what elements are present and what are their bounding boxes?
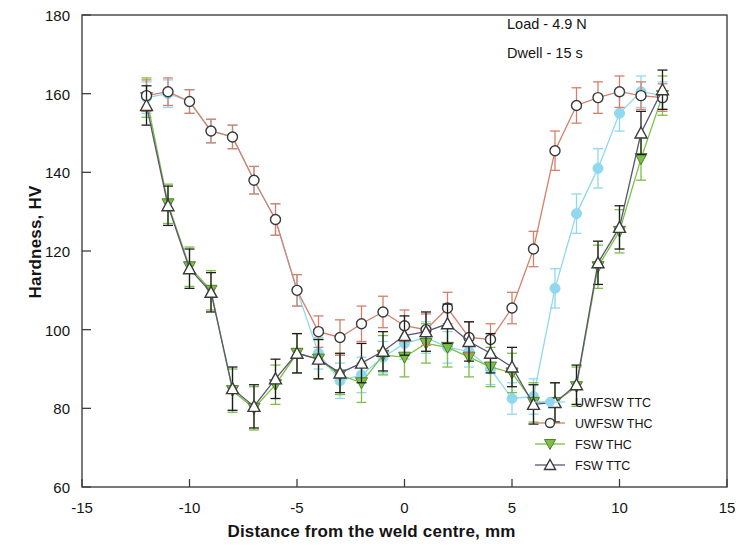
y-tick-label: 160 <box>45 86 70 103</box>
y-tick-label: 140 <box>45 164 70 181</box>
data-point-marker <box>249 175 259 185</box>
data-series-layer <box>141 70 669 430</box>
data-point-marker <box>546 398 555 407</box>
data-point-marker <box>572 209 582 219</box>
data-point-marker <box>635 127 647 138</box>
x-tick-label: -10 <box>179 499 201 516</box>
data-point-marker <box>206 126 216 136</box>
data-point-marker <box>357 319 367 329</box>
x-tick-label: 15 <box>719 499 736 516</box>
y-tick-label: 60 <box>53 479 70 496</box>
data-point-marker <box>507 394 517 404</box>
chart-canvas: -15-10-50510156080100120140160180 Load -… <box>0 0 743 550</box>
legend-entry-fsw-ttc[interactable]: FSW TTC <box>535 459 630 473</box>
data-point-marker <box>335 333 345 343</box>
annotation-dwell: Dwell - 15 s <box>507 45 583 61</box>
data-point-marker <box>550 146 560 156</box>
series-fsw-thc <box>141 76 669 430</box>
x-tick-label: 0 <box>400 499 408 516</box>
axis-tick-labels-layer: -15-10-50510156080100120140160180 <box>45 7 735 516</box>
legend-label: UWFSW TTC <box>575 396 651 410</box>
data-point-marker <box>163 87 173 97</box>
y-tick-label: 120 <box>45 243 70 260</box>
legend-label: UWFSW THC <box>575 417 653 431</box>
legend-label: FSW THC <box>575 438 632 452</box>
data-point-marker <box>271 215 281 225</box>
x-axis-title: Distance from the weld centre, mm <box>0 522 743 542</box>
legend-entry-uwfsw-thc[interactable]: UWFSW THC <box>535 417 653 431</box>
x-tick-label: -5 <box>290 499 303 516</box>
data-point-marker <box>615 87 625 97</box>
x-tick-label: 10 <box>611 499 628 516</box>
data-point-marker <box>636 91 646 101</box>
annotation-layer: Load - 4.9 NDwell - 15 s <box>507 16 587 61</box>
annotation-load: Load - 4.9 N <box>507 16 587 32</box>
y-tick-label: 80 <box>53 400 70 417</box>
data-point-marker <box>572 100 582 110</box>
data-point-marker <box>593 163 603 173</box>
data-point-marker <box>292 285 302 295</box>
data-point-marker <box>378 307 388 317</box>
data-point-marker <box>593 93 603 103</box>
series-line <box>147 92 663 340</box>
x-tick-label: -15 <box>71 499 93 516</box>
data-point-marker <box>314 327 324 337</box>
y-tick-label: 100 <box>45 322 70 339</box>
legend-label: FSW TTC <box>575 459 630 473</box>
hardness-profile-chart: -15-10-50510156080100120140160180 Load -… <box>0 0 743 550</box>
y-tick-label: 180 <box>45 7 70 24</box>
data-point-marker <box>507 303 517 313</box>
data-point-marker <box>657 84 669 95</box>
legend-entry-fsw-thc[interactable]: FSW THC <box>535 438 632 452</box>
data-point-marker <box>615 108 625 118</box>
data-point-marker <box>185 97 195 107</box>
data-point-marker <box>546 419 555 428</box>
data-point-marker <box>228 132 238 142</box>
x-tick-label: 5 <box>508 499 516 516</box>
data-point-marker <box>506 361 518 372</box>
y-axis-title: Hardness, HV <box>26 122 46 362</box>
data-point-marker <box>550 283 560 293</box>
data-point-marker <box>529 244 539 254</box>
